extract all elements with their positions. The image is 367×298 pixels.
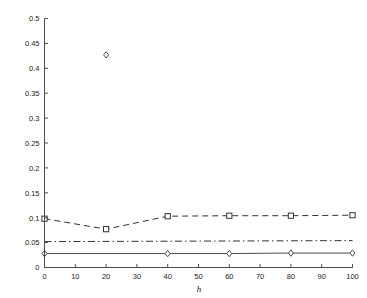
axis-spines	[45, 19, 353, 268]
x-tick-label: 30	[133, 272, 141, 281]
square-marker	[104, 227, 109, 232]
square-marker	[288, 213, 293, 218]
x-tick-label: 80	[287, 272, 295, 281]
chart-plot-area: 00.050.10.150.20.250.30.350.40.450.50102…	[0, 0, 367, 298]
series-line-solid-diamond-series	[45, 253, 353, 254]
x-tick-label: 40	[164, 272, 172, 281]
y-tick-label: 0.25	[25, 139, 40, 148]
x-tick-label: 50	[194, 272, 202, 281]
x-tick-label: 10	[71, 272, 79, 281]
y-tick-label: 0.2	[29, 164, 39, 173]
square-marker	[350, 213, 355, 218]
y-tick-label: 0.45	[25, 39, 40, 48]
diamond-marker	[165, 250, 170, 256]
y-tick-label: 0.05	[25, 238, 40, 247]
y-tick-label: 0.1	[29, 214, 39, 223]
y-tick-label: 0.35	[25, 89, 40, 98]
diamond-marker	[227, 250, 232, 256]
x-tick-label: 70	[256, 272, 264, 281]
x-tick-label: 0	[42, 272, 46, 281]
series-line-dash-dot-series	[45, 241, 353, 242]
series-line-dashed-square-series	[45, 215, 353, 229]
x-tick-label: 60	[225, 272, 233, 281]
square-marker	[165, 214, 170, 219]
y-tick-label: 0.15	[25, 189, 40, 198]
axis-layer	[45, 19, 353, 268]
x-tick-label: 20	[102, 272, 110, 281]
y-tick-label: 0.4	[29, 64, 39, 73]
x-tick-label: 100	[346, 272, 359, 281]
diamond-marker	[350, 250, 355, 256]
y-tick-label: 0	[35, 263, 39, 272]
x-axis-title: h	[197, 284, 202, 294]
y-tick-label: 0.3	[29, 114, 39, 123]
chart-figure: 00.050.10.150.20.250.30.350.40.450.50102…	[0, 0, 367, 298]
y-tick-label: 0.5	[29, 14, 39, 23]
diamond-marker	[104, 52, 109, 58]
square-marker	[227, 213, 232, 218]
series-layer	[42, 52, 355, 257]
diamond-marker	[288, 250, 293, 256]
x-tick-label: 90	[318, 272, 326, 281]
